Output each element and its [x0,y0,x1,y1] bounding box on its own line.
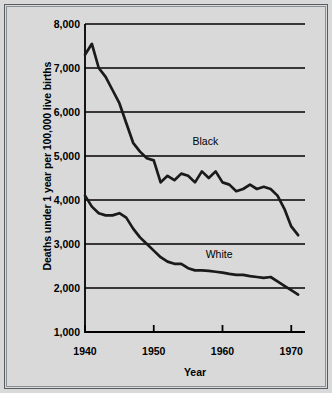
x-axis-title: Year [85,366,305,378]
x-tick-label: 1970 [266,345,316,357]
series-annotation-black: Black [192,135,218,147]
plot-area [0,0,332,393]
x-tick-label: 1960 [198,345,248,357]
series-line-white [85,196,298,295]
x-tick-label: 1950 [129,345,179,357]
series-lines [85,44,298,295]
axis-lines [85,24,305,332]
x-tick-label: 1940 [60,345,110,357]
series-annotation-white: White [206,248,233,260]
gridlines [85,24,305,332]
chart-figure: Deaths under 1 year per 100,000 live bir… [0,0,332,393]
